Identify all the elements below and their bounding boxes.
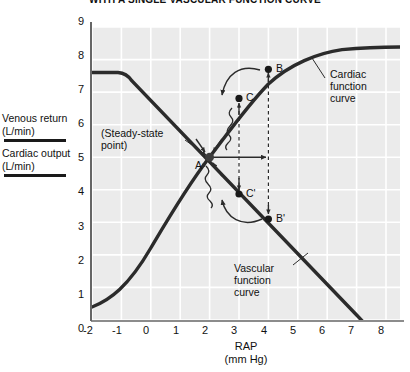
steady-state-line-1: (Steady-state	[101, 127, 187, 139]
point-label-a: A	[195, 159, 202, 171]
vascular-curve-line-2: function	[234, 274, 304, 286]
point-label-c: C	[246, 91, 254, 103]
point-label-bprime: B'	[276, 212, 285, 224]
annotation-cardiac-function-curve: Cardiac function curve	[330, 68, 404, 104]
vascular-curve-line-1: Vascular	[234, 262, 304, 274]
point-marker-cprime	[235, 190, 242, 197]
point-marker-bprime	[265, 215, 272, 222]
annotation-steady-state: (Steady-state point)	[101, 127, 187, 151]
figure-container: WITH A SINGLE VASCULAR FUNCTION CURVE Ve…	[0, 0, 410, 372]
vascular-curve-line-3: curve	[234, 286, 304, 298]
point-marker-c	[235, 95, 242, 102]
cardiac-curve-line-1: Cardiac	[330, 68, 404, 80]
point-label-cprime: C'	[246, 187, 256, 199]
cardiac-curve-line-2: function	[330, 80, 404, 92]
plot-area	[0, 0, 410, 372]
cardiac-curve-line-3: curve	[330, 92, 404, 104]
point-marker-a	[205, 153, 214, 162]
steady-state-line-2: point)	[101, 139, 187, 151]
point-label-b: B	[276, 62, 283, 74]
point-marker-b	[265, 66, 272, 73]
annotation-vascular-function-curve: Vascular function curve	[234, 262, 304, 298]
